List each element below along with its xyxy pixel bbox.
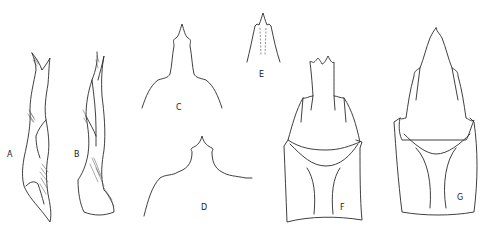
panel-label-b: B [74, 150, 80, 159]
figure-plate: A B C D E F G [0, 0, 491, 230]
panel-b-drawing [78, 52, 114, 215]
panel-c-drawing [142, 24, 222, 108]
panel-label-g: G [457, 193, 463, 202]
panel-label-d: D [201, 203, 207, 212]
panel-label-a: A [7, 150, 13, 159]
panel-g-drawing [394, 28, 477, 215]
panel-d-drawing [144, 136, 252, 216]
panel-e-drawing [247, 13, 280, 62]
panel-f-drawing [284, 56, 362, 222]
panel-a-drawing [23, 53, 51, 222]
panel-label-f: F [340, 203, 345, 212]
panel-label-e: E [259, 70, 264, 79]
panel-label-c: C [176, 103, 182, 112]
